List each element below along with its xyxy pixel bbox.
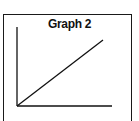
data-line (17, 40, 103, 106)
graph-plot (0, 0, 139, 121)
